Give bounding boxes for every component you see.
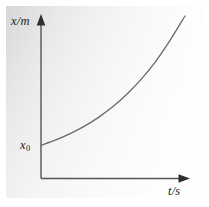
y-intercept-symbol: x [20, 138, 26, 152]
figure-root: x/m t/s x0 [0, 0, 209, 207]
exponential-curve-series [42, 16, 186, 145]
x-axis-arrowhead-icon [179, 174, 191, 183]
x-axis-label: t/s [168, 185, 180, 198]
y-intercept-label: x0 [20, 139, 30, 152]
y-intercept-subscript: 0 [26, 143, 30, 153]
y-axis-label: x/m [11, 15, 30, 28]
chart-canvas [0, 0, 209, 207]
y-axis-arrowhead-icon [37, 14, 46, 26]
